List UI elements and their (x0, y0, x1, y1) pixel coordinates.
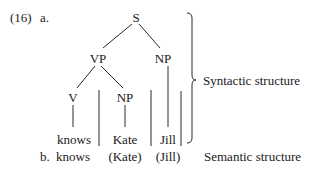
node-s: S (132, 11, 139, 24)
edge-s-vp (103, 24, 132, 48)
node-np-subject: NP (155, 52, 172, 65)
leaf-jill: Jill (160, 133, 176, 146)
node-vp: VP (90, 52, 107, 65)
edge-vp-v (77, 66, 95, 88)
semantic-knows: knows (56, 150, 90, 163)
leaf-kate: Kate (113, 133, 138, 146)
semantic-jill: (Jill) (156, 150, 181, 163)
syntactic-structure-label: Syntactic structure (203, 74, 300, 87)
edge-vp-np (101, 66, 123, 88)
edge-s-np (139, 24, 160, 48)
example-number: (16) (10, 11, 32, 24)
node-v: V (68, 91, 77, 104)
part-a-label: a. (40, 11, 49, 24)
part-b-label: b. (40, 150, 50, 163)
leaf-knows: knows (57, 133, 91, 146)
node-np-object: NP (117, 91, 134, 104)
curly-brace (187, 13, 196, 143)
semantic-kate: (Kate) (108, 150, 141, 163)
semantic-structure-label: Semantic structure (204, 150, 301, 163)
